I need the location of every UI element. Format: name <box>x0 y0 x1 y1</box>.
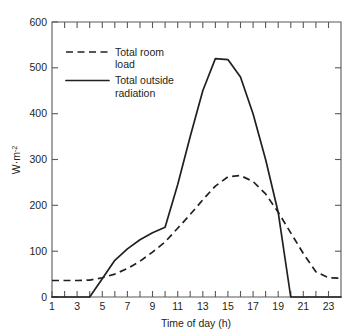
legend-label-total-room-load-line1: Total room <box>115 46 164 58</box>
y-tick-label-500: 500 <box>29 61 47 73</box>
y-axis-ticks-right <box>335 68 341 251</box>
legend-label-total-room-load-line2: load <box>115 58 135 70</box>
x-tick-label-19: 19 <box>272 300 284 312</box>
x-tick-label-21: 21 <box>297 300 309 312</box>
legend-label-total-outside-radiation-line2: radiation <box>115 87 155 99</box>
y-axis-title-exponent: -2 <box>10 146 19 152</box>
x-tick-labels: 1 3 5 7 9 11 13 15 17 19 21 23 <box>49 300 334 312</box>
series-total-room-load <box>52 176 341 281</box>
y-tick-labels: 0 100 200 300 400 500 600 <box>29 16 47 303</box>
y-tick-label-600: 600 <box>29 16 47 28</box>
y-tick-label-200: 200 <box>29 199 47 211</box>
x-tick-label-11: 11 <box>172 300 183 312</box>
y-axis-ticks <box>52 22 58 297</box>
y-tick-label-300: 300 <box>29 153 47 165</box>
x-tick-label-1: 1 <box>49 300 55 312</box>
chart-figure: 0 100 200 300 400 500 600 1 3 5 7 9 11 1… <box>0 0 357 332</box>
x-tick-label-3: 3 <box>74 300 80 312</box>
y-axis-title: W·m <box>10 152 22 174</box>
x-axis-title: Time of day (h) <box>161 317 231 329</box>
line-chart: 0 100 200 300 400 500 600 1 3 5 7 9 11 1… <box>0 0 357 332</box>
y-axis-title-group: W·m-2 <box>10 146 23 175</box>
svg-text:W·m-2: W·m-2 <box>10 146 23 175</box>
series-total-outside-radiation <box>52 59 341 297</box>
x-axis-ticks-top <box>65 22 329 28</box>
y-tick-label-0: 0 <box>41 291 47 303</box>
x-tick-label-13: 13 <box>197 300 209 312</box>
y-tick-label-400: 400 <box>29 107 47 119</box>
chart-legend: Total room load Total outside radiation <box>66 46 174 99</box>
x-tick-label-9: 9 <box>150 300 156 312</box>
legend-label-total-outside-radiation-line1: Total outside <box>115 74 174 86</box>
x-tick-label-15: 15 <box>222 300 234 312</box>
x-tick-label-23: 23 <box>323 300 335 312</box>
x-tick-label-5: 5 <box>99 300 105 312</box>
x-tick-label-7: 7 <box>124 300 130 312</box>
axis-box <box>52 22 341 297</box>
axes-frame <box>52 22 341 297</box>
x-tick-label-17: 17 <box>247 300 259 312</box>
y-tick-label-100: 100 <box>29 245 47 257</box>
